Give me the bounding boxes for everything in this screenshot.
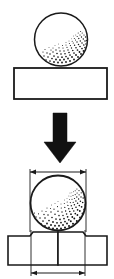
ball-indenter	[35, 13, 88, 66]
deformed-specimen-left	[8, 232, 58, 265]
stage-after-group	[8, 169, 107, 276]
down-arrow-icon	[44, 113, 76, 163]
indentation-diagram: Ball indentation test diagram Two-stage …	[0, 0, 114, 279]
deformed-specimen-right	[58, 232, 107, 265]
load-direction-arrow-group	[44, 113, 76, 163]
diagram-canvas	[0, 0, 114, 279]
flat-specimen-plate	[14, 68, 107, 99]
stage-before-group	[14, 13, 107, 99]
